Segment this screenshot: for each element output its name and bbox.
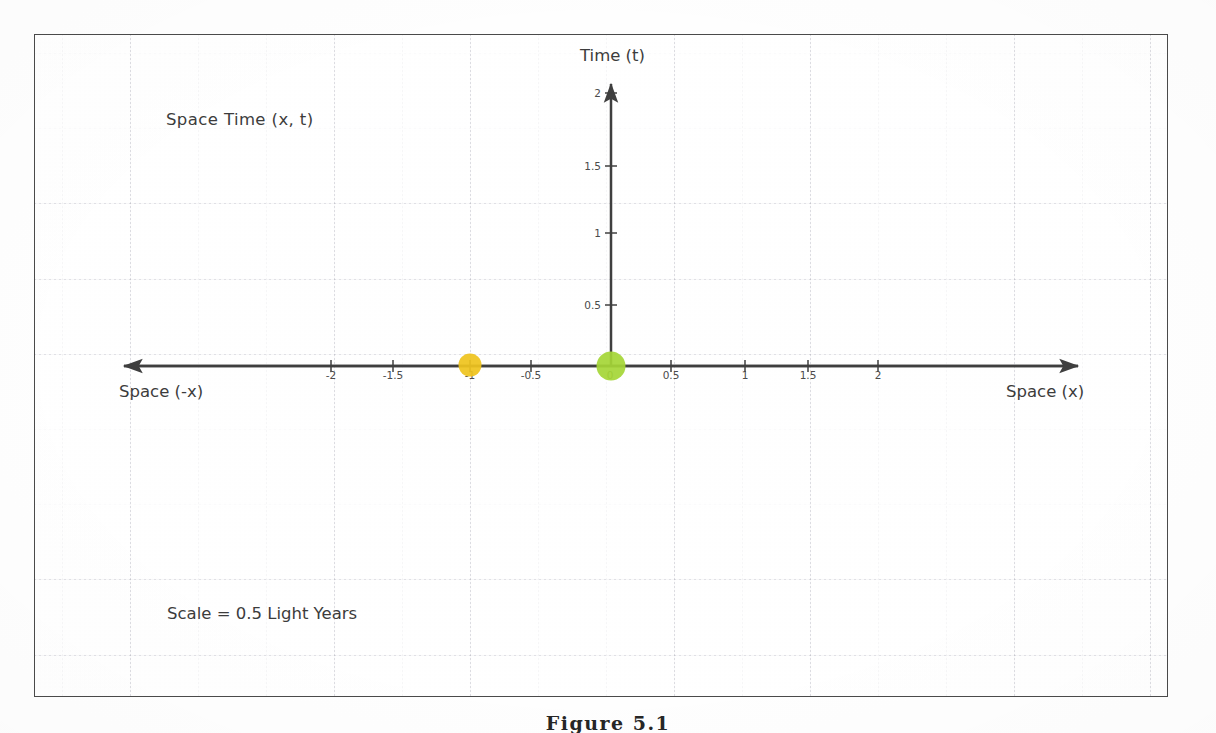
x-tick-label-0-5: 0.5 (663, 369, 680, 381)
space-negative-axis-label: Space (-x) (119, 382, 203, 401)
x-tick-label-2: 2 (875, 369, 882, 381)
event-dot-origin[interactable] (597, 352, 626, 381)
time-axis-label: Time (t) (580, 46, 645, 65)
x-tick-label-neg2: -2 (326, 369, 336, 381)
y-tick-label-1-5: 1.5 (584, 160, 601, 172)
spacetime-title-label: Space Time (x, t) (166, 110, 314, 129)
y-tick-label-1: 1 (594, 227, 601, 239)
x-tick-label-1: 1 (742, 369, 749, 381)
x-tick-label-1-5: 1.5 (800, 369, 817, 381)
y-tick-label-2: 2 (594, 87, 601, 99)
space-positive-axis-label: Space (x) (1006, 382, 1084, 401)
scale-note-label: Scale = 0.5 Light Years (167, 604, 357, 623)
event-dot-departure[interactable] (459, 354, 482, 377)
x-tick-label-neg0-5: -0.5 (521, 369, 542, 381)
x-tick-label-neg1-5: -1.5 (383, 369, 404, 381)
scanned-page: -2 -1.5 -1 -0.5 0 0.5 1 1.5 2 0.5 1 1.5 … (0, 0, 1216, 733)
figure-caption: Figure 5.1 (0, 714, 1216, 733)
y-tick-label-0-5: 0.5 (584, 299, 601, 311)
